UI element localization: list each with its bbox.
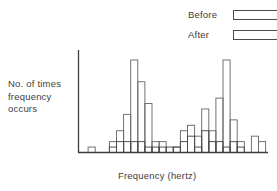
histogram-bar: [131, 60, 138, 153]
bars-series-after: [109, 131, 244, 153]
histogram-bar: [195, 147, 202, 152]
histogram-bar: [145, 147, 152, 152]
histogram-bar: [259, 142, 266, 153]
plot-area: [0, 0, 277, 191]
histogram-bar: [173, 147, 180, 152]
histogram-bar: [188, 125, 195, 152]
histogram-bar: [131, 142, 138, 153]
bars-series-before: [88, 60, 266, 153]
histogram-bar: [159, 147, 166, 152]
histogram-bar: [117, 142, 124, 153]
axis-lines: [78, 50, 268, 153]
histogram-bar: [202, 131, 209, 153]
histogram-bar: [188, 136, 195, 152]
histogram-bar: [88, 147, 95, 152]
histogram-bar: [173, 147, 180, 152]
histogram-bar: [251, 136, 258, 152]
histogram-bar: [124, 114, 131, 152]
histogram-bar: [237, 147, 244, 152]
histogram-figure: Before After No. of times frequency occu…: [0, 0, 277, 191]
histogram-bar: [145, 104, 152, 153]
histogram-bar: [152, 147, 159, 152]
histogram-bar: [166, 147, 173, 152]
histogram-bar: [230, 142, 237, 153]
histogram-bar: [195, 136, 202, 152]
histogram-bar: [124, 142, 131, 153]
histogram-bar: [109, 147, 116, 152]
histogram-bar: [216, 98, 223, 152]
histogram-bar: [230, 120, 237, 153]
histogram-bar: [223, 147, 230, 152]
bars-group: [88, 60, 266, 153]
histogram-svg: [0, 0, 277, 191]
histogram-bar: [138, 142, 145, 153]
histogram-bar: [216, 142, 223, 153]
histogram-bar: [180, 142, 187, 153]
histogram-bar: [209, 142, 216, 153]
histogram-bar: [223, 60, 230, 153]
